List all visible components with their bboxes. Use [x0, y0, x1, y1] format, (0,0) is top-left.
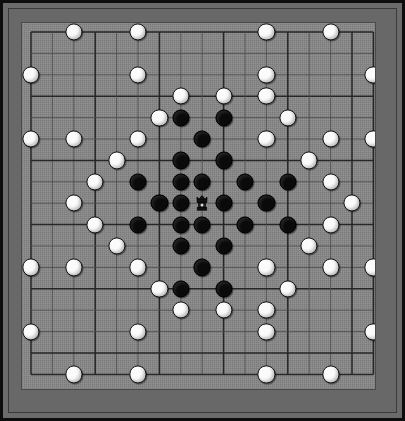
- stone-white[interactable]: [343, 195, 360, 212]
- stone-white[interactable]: [65, 195, 82, 212]
- stone-white[interactable]: [129, 23, 146, 40]
- stone-white[interactable]: [22, 259, 39, 276]
- stone-black[interactable]: [129, 216, 146, 233]
- stone-white[interactable]: [322, 130, 339, 147]
- stone-white[interactable]: [65, 23, 82, 40]
- stone-black[interactable]: [215, 237, 232, 254]
- king-piece-icon[interactable]: [195, 194, 209, 212]
- stone-white[interactable]: [322, 366, 339, 383]
- stone-black[interactable]: [215, 195, 232, 212]
- stone-white[interactable]: [279, 280, 296, 297]
- stone-black[interactable]: [172, 280, 189, 297]
- stone-white[interactable]: [215, 302, 232, 319]
- stone-white[interactable]: [365, 130, 376, 147]
- stone-white[interactable]: [322, 23, 339, 40]
- stone-black[interactable]: [236, 216, 253, 233]
- stone-white[interactable]: [258, 323, 275, 340]
- stone-white[interactable]: [258, 259, 275, 276]
- stone-black[interactable]: [194, 130, 211, 147]
- stone-black[interactable]: [215, 152, 232, 169]
- stone-white[interactable]: [322, 173, 339, 190]
- stone-white[interactable]: [151, 109, 168, 126]
- stone-black[interactable]: [172, 173, 189, 190]
- stone-white[interactable]: [172, 88, 189, 105]
- stone-white[interactable]: [301, 152, 318, 169]
- stone-white[interactable]: [22, 130, 39, 147]
- stone-black[interactable]: [279, 173, 296, 190]
- stone-white[interactable]: [129, 259, 146, 276]
- stone-white[interactable]: [258, 66, 275, 83]
- stone-white[interactable]: [129, 323, 146, 340]
- stone-white[interactable]: [365, 323, 376, 340]
- stone-white[interactable]: [108, 237, 125, 254]
- stone-white[interactable]: [365, 259, 376, 276]
- stone-black[interactable]: [194, 173, 211, 190]
- stone-white[interactable]: [22, 323, 39, 340]
- stone-black[interactable]: [236, 173, 253, 190]
- stone-white[interactable]: [129, 66, 146, 83]
- stone-white[interactable]: [129, 366, 146, 383]
- stone-black[interactable]: [194, 216, 211, 233]
- stone-white[interactable]: [172, 302, 189, 319]
- stones-layer: [22, 23, 375, 389]
- stone-white[interactable]: [258, 366, 275, 383]
- stone-black[interactable]: [129, 173, 146, 190]
- stone-black[interactable]: [194, 259, 211, 276]
- stone-black[interactable]: [172, 195, 189, 212]
- stone-white[interactable]: [258, 23, 275, 40]
- stone-white[interactable]: [108, 152, 125, 169]
- stone-white[interactable]: [65, 366, 82, 383]
- stone-white[interactable]: [65, 259, 82, 276]
- stone-black[interactable]: [215, 280, 232, 297]
- stone-white[interactable]: [215, 88, 232, 105]
- stone-white[interactable]: [322, 259, 339, 276]
- stone-white[interactable]: [258, 88, 275, 105]
- stone-black[interactable]: [151, 195, 168, 212]
- stone-white[interactable]: [258, 130, 275, 147]
- stone-black[interactable]: [172, 216, 189, 233]
- stone-white[interactable]: [65, 130, 82, 147]
- stone-black[interactable]: [172, 152, 189, 169]
- stone-white[interactable]: [22, 66, 39, 83]
- tafl-board-app: [0, 0, 405, 421]
- stone-white[interactable]: [365, 66, 376, 83]
- stone-black[interactable]: [215, 109, 232, 126]
- stone-white[interactable]: [301, 237, 318, 254]
- stone-white[interactable]: [87, 216, 104, 233]
- stone-white[interactable]: [279, 109, 296, 126]
- board-play-surface[interactable]: [21, 22, 376, 390]
- stone-white[interactable]: [151, 280, 168, 297]
- stone-black[interactable]: [258, 195, 275, 212]
- stone-white[interactable]: [87, 173, 104, 190]
- stone-white[interactable]: [322, 216, 339, 233]
- stone-white[interactable]: [258, 302, 275, 319]
- stone-black[interactable]: [172, 109, 189, 126]
- stone-black[interactable]: [279, 216, 296, 233]
- stone-black[interactable]: [172, 237, 189, 254]
- stone-white[interactable]: [129, 130, 146, 147]
